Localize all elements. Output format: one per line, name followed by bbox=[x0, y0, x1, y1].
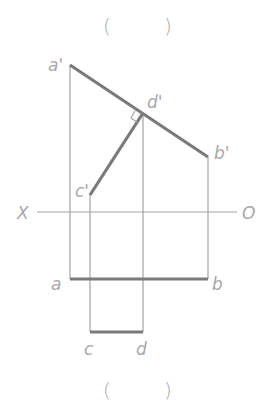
label-d-prime: d' bbox=[147, 92, 162, 112]
orthographic-projection-diagram: ( ) X O a' d' b' c' a b c d ( ) bbox=[0, 0, 274, 405]
label-a: a bbox=[51, 274, 61, 294]
axis-label-o: O bbox=[242, 203, 255, 223]
right-angle-marker-icon bbox=[131, 111, 137, 122]
label-c-prime: c' bbox=[75, 181, 89, 201]
line-a-prime-b-prime bbox=[70, 65, 208, 157]
top-caption-open-paren: ( bbox=[103, 14, 111, 38]
top-caption-close-paren: ) bbox=[164, 14, 172, 38]
axis-label-x: X bbox=[16, 203, 29, 223]
bottom-caption-open-paren: ( bbox=[103, 378, 111, 402]
label-a-prime: a' bbox=[48, 55, 63, 75]
label-b-prime: b' bbox=[214, 143, 229, 163]
line-c-prime-d-prime bbox=[90, 113, 143, 195]
label-c: c bbox=[84, 339, 94, 359]
label-d: d bbox=[136, 339, 147, 359]
bottom-caption-close-paren: ) bbox=[164, 378, 172, 402]
label-b: b bbox=[212, 274, 223, 294]
